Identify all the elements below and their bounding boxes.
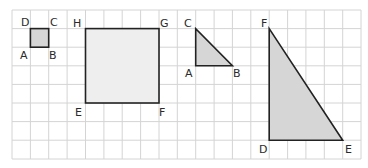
geometry-diagram: D C A B H G F E C A B F D E	[0, 0, 368, 168]
label-b: B	[233, 67, 241, 80]
label-f: F	[261, 17, 267, 30]
small-square-abcd: D C A B	[20, 16, 58, 62]
label-e: E	[345, 143, 352, 156]
label-d: D	[21, 16, 29, 29]
label-a: A	[20, 49, 28, 62]
label-h: H	[73, 17, 81, 30]
label-c: C	[50, 16, 58, 29]
label-a: A	[185, 67, 193, 80]
label-b: B	[49, 49, 57, 62]
label-e: E	[75, 106, 82, 119]
label-c: C	[184, 17, 192, 30]
label-d: D	[259, 143, 267, 156]
large-square-efgh: H G F E	[73, 17, 169, 119]
label-f: F	[159, 106, 165, 119]
label-g: G	[160, 17, 169, 30]
